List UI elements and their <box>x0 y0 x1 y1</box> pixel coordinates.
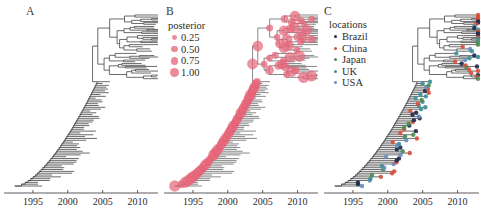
circle-icon <box>170 68 179 77</box>
locations-legend-swatch <box>329 81 342 84</box>
circle-icon <box>334 47 337 50</box>
posterior-legend-item: 0.75 <box>168 55 205 67</box>
axis-tick-label: 2005 <box>413 196 433 207</box>
locations-legend-item: USA <box>329 77 368 89</box>
locations-legend-label: Japan <box>342 54 366 66</box>
axis-tick-label: 2010 <box>448 196 468 207</box>
axis-tick-label: 1995 <box>183 196 203 207</box>
locations-legend-label: Brazil <box>342 31 368 43</box>
circle-icon <box>334 81 337 84</box>
posterior-legend-circle <box>168 57 181 65</box>
posterior-legend-label: 0.50 <box>181 44 199 56</box>
axis-tick-label: 1995 <box>23 196 43 207</box>
locations-legend-label: USA <box>342 77 363 89</box>
phylogenetic-figure: A 1995200020052010 B posterior 0.250.500… <box>0 0 481 219</box>
panel-b: B posterior 0.250.500.751.00 19952000200… <box>160 0 320 219</box>
posterior-legend-item: 0.50 <box>168 44 205 56</box>
panel-c-axis-labels: 1995200020052010 <box>320 196 481 210</box>
circle-icon <box>334 35 337 38</box>
posterior-legend-circle <box>168 68 181 77</box>
locations-legend-swatch <box>329 35 342 38</box>
posterior-legend-label: 1.00 <box>181 67 199 79</box>
locations-legend-item: China <box>329 43 368 55</box>
locations-legend-label: UK <box>342 66 357 78</box>
locations-legend-title: locations <box>329 19 368 30</box>
axis-tick-label: 1995 <box>343 196 363 207</box>
posterior-legend-circle <box>168 35 181 40</box>
posterior-legend-label: 0.75 <box>181 55 199 67</box>
circle-icon <box>172 35 177 40</box>
panel-a-axis <box>0 0 160 219</box>
locations-legend-swatch <box>329 47 342 50</box>
posterior-legend-circle <box>168 46 181 52</box>
axis-tick-label: 2000 <box>378 196 398 207</box>
circle-icon <box>171 57 179 65</box>
posterior-legend: posterior 0.250.500.751.00 <box>168 20 205 78</box>
circle-icon <box>171 46 177 52</box>
locations-legend: locations BrazilChinaJapanUKUSA <box>329 19 368 89</box>
posterior-legend-item: 1.00 <box>168 67 205 79</box>
locations-legend-label: China <box>342 43 367 55</box>
posterior-legend-label: 0.25 <box>181 32 199 44</box>
axis-tick-label: 2010 <box>288 196 308 207</box>
axis-tick-label: 2005 <box>93 196 113 207</box>
panel-a-axis-labels: 1995200020052010 <box>0 196 160 210</box>
locations-legend-entries: BrazilChinaJapanUKUSA <box>329 31 368 89</box>
locations-legend-item: UK <box>329 66 368 78</box>
locations-legend-item: Brazil <box>329 31 368 43</box>
axis-tick-label: 2010 <box>128 196 148 207</box>
posterior-legend-title: posterior <box>168 20 205 31</box>
circle-icon <box>334 58 337 61</box>
panel-c: C locations BrazilChinaJapanUKUSA 199520… <box>320 0 481 219</box>
panel-b-axis-labels: 1995200020052010 <box>160 196 320 210</box>
panel-a: A 1995200020052010 <box>0 0 160 219</box>
axis-tick-label: 2005 <box>253 196 273 207</box>
locations-legend-item: Japan <box>329 54 368 66</box>
posterior-legend-item: 0.25 <box>168 32 205 44</box>
locations-legend-swatch <box>329 70 342 73</box>
axis-tick-label: 2000 <box>58 196 78 207</box>
locations-legend-swatch <box>329 58 342 61</box>
posterior-legend-entries: 0.250.500.751.00 <box>168 32 205 78</box>
axis-tick-label: 2000 <box>218 196 238 207</box>
circle-icon <box>334 70 337 73</box>
